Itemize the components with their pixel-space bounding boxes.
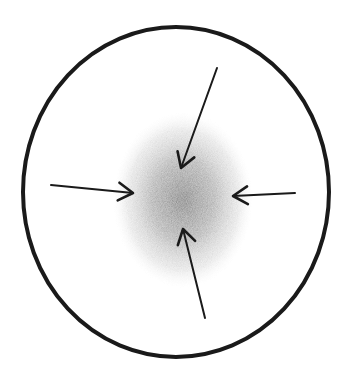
arrow-from-right: [233, 186, 295, 204]
diagram-canvas: [0, 0, 346, 379]
diagram-svg: [0, 0, 346, 379]
concentration-blob: [113, 112, 253, 288]
